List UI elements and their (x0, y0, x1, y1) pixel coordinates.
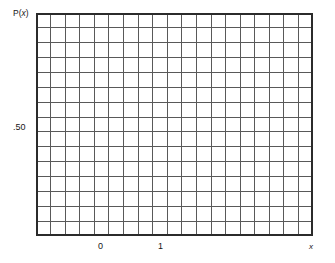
y-axis-label-suffix: ) (26, 8, 29, 18)
grid-lines (36, 13, 313, 236)
x-axis-label: x (309, 243, 313, 251)
y-axis-label: P(x) (13, 9, 29, 18)
x-tick-label-0: 0 (98, 242, 103, 251)
plot-area (36, 13, 313, 236)
figure-blank-grid-plot: P(x) .50 0 1 x (0, 0, 335, 263)
x-tick-label-1: 1 (158, 242, 163, 251)
y-axis-label-prefix: P( (13, 8, 22, 18)
y-tick-label-0-50: .50 (13, 123, 26, 132)
